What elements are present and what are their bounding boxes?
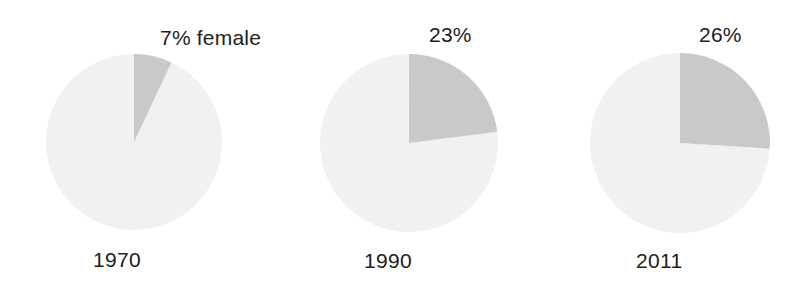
pie-year-label-2011: 2011 [636, 250, 682, 271]
pie-canvas-2011 [544, 0, 803, 290]
pie-slices-1990 [320, 54, 498, 232]
pie-slices-1970 [46, 54, 222, 230]
pie-slice-male-1970 [46, 54, 222, 230]
pie-chart-1970: 7% female 1970 [0, 0, 270, 290]
pie-canvas-1990 [272, 0, 542, 290]
pie-chart-2011: 26% 2011 [544, 0, 803, 290]
pie-chart-figure: 7% female 1970 23% 1990 26% 2011 [0, 0, 803, 290]
pie-percent-label-1990: 23% [429, 24, 472, 45]
pie-slices-2011 [590, 53, 770, 233]
pie-slice-female-1990 [409, 54, 497, 143]
pie-year-label-1970: 1970 [93, 249, 141, 270]
pie-year-label-1990: 1990 [364, 250, 412, 271]
pie-percent-label-2011: 26% [699, 24, 742, 45]
pie-slice-female-2011 [680, 53, 770, 149]
pie-percent-label-1970: 7% female [160, 27, 261, 48]
pie-chart-1990: 23% 1990 [272, 0, 542, 290]
